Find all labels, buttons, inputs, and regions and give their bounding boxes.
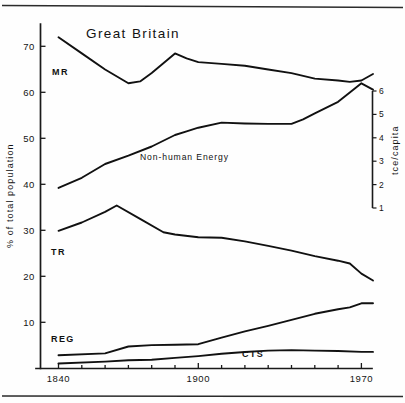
xtick-label-1900: 1900 — [187, 373, 211, 384]
xtick-label-1970: 1970 — [350, 373, 374, 384]
ytick-label-20: 20 — [23, 271, 35, 282]
xtick-label-1840: 1840 — [47, 373, 71, 384]
y2tick-label-1: 1 — [379, 203, 384, 213]
ytick-label-10: 10 — [23, 317, 35, 328]
series-line-non-human-energy — [59, 83, 374, 188]
series-label-mr: MR — [52, 67, 69, 77]
ytick-label-70: 70 — [23, 41, 35, 52]
ytick-label-30: 30 — [23, 225, 35, 236]
figure-container: 70 60 50 40 30 20 10 % of total populati… — [0, 0, 405, 403]
series-line-tr — [59, 206, 374, 281]
series-label-reg: REG — [51, 334, 75, 344]
right-axis-title: tce/capita — [390, 125, 400, 175]
chart-svg: 70 60 50 40 30 20 10 % of total populati… — [0, 0, 405, 403]
series-line-reg — [59, 303, 374, 355]
chart-title: Great Britain — [86, 26, 180, 41]
ytick-label-40: 40 — [23, 179, 35, 190]
series-line-mr — [59, 37, 374, 83]
ytick-label-60: 60 — [23, 87, 35, 98]
series-group — [59, 37, 374, 363]
y2tick-label-2: 2 — [379, 180, 384, 190]
series-line-cts — [59, 350, 374, 363]
y2tick-label-4: 4 — [379, 133, 384, 143]
series-label-cts: CTS — [242, 349, 264, 359]
y2tick-label-3: 3 — [379, 156, 384, 166]
series-label-non-human-energy: Non-human Energy — [140, 152, 229, 162]
annotations-group: Great Britain MR Non-human Energy TR REG… — [51, 26, 264, 359]
left-axis-title: % of total population — [5, 143, 15, 248]
page-rule-bottom — [2, 396, 403, 397]
ytick-label-50: 50 — [23, 133, 35, 144]
y2tick-label-6: 6 — [379, 86, 384, 96]
y2tick-label-5: 5 — [379, 109, 384, 119]
series-label-tr: TR — [51, 247, 66, 257]
axes-group: 70 60 50 40 30 20 10 % of total populati… — [5, 24, 400, 384]
page-rule-top — [2, 6, 403, 8]
